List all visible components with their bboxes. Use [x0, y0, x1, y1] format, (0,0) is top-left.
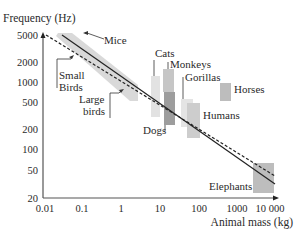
y-axis-title: Frequency (Hz): [3, 12, 76, 25]
x-tick-1000: 1000: [227, 203, 248, 214]
y-tick-labels: 5000 2000 1000 500 200 100 50 20: [17, 30, 38, 204]
x-tick-0.01: 0.01: [36, 203, 54, 214]
label-dogs: Dogs: [143, 124, 166, 136]
cats-box: [151, 76, 160, 117]
elephants-box: [253, 163, 274, 193]
x-tick-1: 1: [118, 203, 123, 214]
label-large-birds-2: birds: [83, 105, 105, 117]
label-elephants: Elephants: [209, 180, 252, 192]
x-axis-title: Animal mass (kg): [211, 216, 294, 229]
y-tick-50: 50: [28, 165, 39, 176]
y-axis-arrow-icon: [41, 32, 46, 38]
monkeys-box: [163, 69, 174, 92]
x-tick-10000: 10 000: [256, 203, 285, 214]
label-monkeys: Monkeys: [170, 58, 211, 70]
label-small-birds-1: Small: [59, 69, 85, 81]
label-small-birds-2: Birds: [59, 81, 83, 93]
y-tick-2000: 2000: [17, 57, 38, 68]
x-tick-10: 10: [155, 203, 166, 214]
humans-box: [187, 103, 200, 138]
x-tick-100: 100: [191, 203, 207, 214]
y-tick-5000: 5000: [17, 30, 38, 41]
x-axis-arrow-icon: [273, 196, 279, 201]
x-tick-0.1: 0.1: [75, 203, 88, 214]
frequency-vs-mass-chart: Frequency (Hz) 5000 2000 1000 500 200 10…: [0, 0, 297, 234]
label-horses: Horses: [234, 83, 265, 95]
label-large-birds-1: Large: [79, 93, 105, 105]
y-tick-100: 100: [22, 144, 38, 155]
y-tick-1000: 1000: [17, 77, 38, 88]
y-tick-200: 200: [22, 124, 38, 135]
label-humans: Humans: [203, 109, 240, 121]
y-tick-500: 500: [22, 97, 38, 108]
horses-box: [220, 83, 231, 101]
label-mice: Mice: [104, 34, 127, 46]
label-gorillas: Gorillas: [185, 71, 220, 83]
x-tick-labels: 0.01 0.1 1 10 100 1000 10 000: [36, 203, 285, 214]
